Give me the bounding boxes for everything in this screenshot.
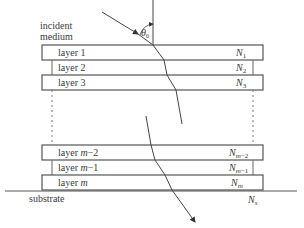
layer-3-label: layer 3 (58, 77, 86, 88)
medium-label: medium (40, 31, 73, 42)
layer-2-label: layer 2 (58, 62, 86, 73)
index-nm: Nm (230, 177, 243, 190)
layer-m-2-label: layer m−2 (58, 147, 98, 158)
layer-m-label: layer m (58, 177, 88, 188)
index-nm-1: Nm−1 (228, 162, 249, 175)
refracted-ray-bottom (146, 116, 195, 222)
layer-1-label: layer 1 (58, 47, 86, 58)
incident-label: incident (40, 20, 72, 31)
index-n2: N2 (235, 62, 247, 75)
index-n3: N3 (235, 77, 247, 90)
incident-ray (102, 12, 138, 34)
index-ns: Ns (247, 194, 258, 207)
angle-theta0: θ0 (141, 27, 149, 39)
thin-film-stack-diagram: incident medium θ0 layer 1 layer 2 layer… (0, 0, 304, 228)
refracted-ray-top (153, 45, 182, 124)
index-nm-2: Nm−2 (228, 147, 249, 160)
layer-m-1-label: layer m−1 (58, 162, 98, 173)
index-n1: N1 (235, 47, 247, 60)
substrate-label: substrate (29, 193, 65, 204)
